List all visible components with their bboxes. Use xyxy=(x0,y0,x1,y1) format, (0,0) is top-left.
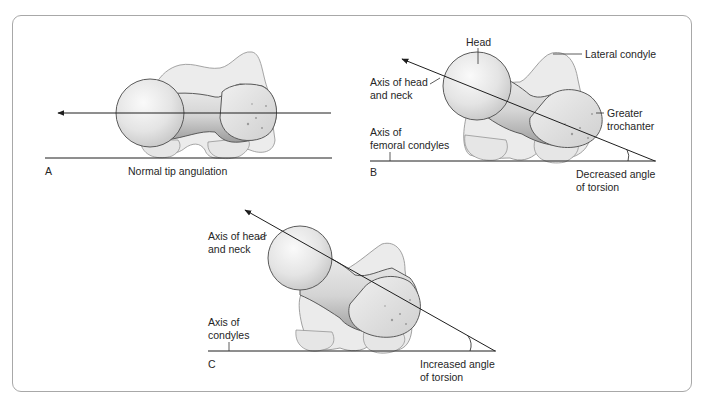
panel-b-letter: B xyxy=(370,166,377,179)
label-b-axis-head-neck-2: and neck xyxy=(370,89,413,102)
panel-c-angle-arc xyxy=(468,336,471,351)
label-c-axis-condyles-2: condyles xyxy=(208,329,249,342)
label-c-axis-head-neck-1: Axis of head xyxy=(208,230,266,243)
label-head: Head xyxy=(466,36,491,49)
label-b-axis-condyles-2: femoral condyles xyxy=(370,139,449,152)
panel-c-caption-2: of torsion xyxy=(420,371,463,384)
panel-b-caption-1: Decreased angle xyxy=(576,168,655,181)
label-lateral-condyle: Lateral condyle xyxy=(585,48,656,61)
panel-c-letter: C xyxy=(208,358,216,371)
label-b-axis-head-neck-1: Axis of head xyxy=(370,76,428,89)
label-greater-trochanter-2: trochanter xyxy=(607,120,654,133)
label-c-axis-head-neck-2: and neck xyxy=(208,243,251,256)
label-b-axis-condyles-1: Axis of xyxy=(370,126,402,139)
panel-a-letter: A xyxy=(45,165,52,178)
panel-c-caption-1: Increased angle xyxy=(420,358,495,371)
panel-a-caption: Normal tip angulation xyxy=(128,165,227,178)
panel-a-femur xyxy=(116,52,277,159)
label-c-axis-condyles-1: Axis of xyxy=(208,316,240,329)
label-greater-trochanter-1: Greater xyxy=(607,107,643,120)
panel-b-caption-2: of torsion xyxy=(576,181,619,194)
panel-b-angle-arc xyxy=(627,150,629,161)
panel-c-femur xyxy=(268,226,420,353)
